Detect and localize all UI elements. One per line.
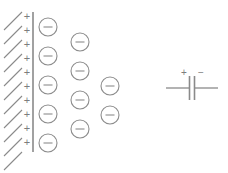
plus-charge: +	[24, 108, 30, 120]
hatch-line	[4, 96, 22, 114]
plus-charge: +	[24, 122, 30, 134]
plus-charge: +	[24, 38, 30, 50]
negative-ion	[39, 47, 57, 65]
double-layer-figure: + + + + + + + + + +	[0, 0, 228, 173]
negative-ion	[101, 106, 119, 124]
negative-ion	[71, 120, 89, 138]
plus-charge: +	[24, 80, 30, 92]
negative-ion	[101, 77, 119, 95]
negative-ion	[39, 18, 57, 36]
negative-ion	[71, 62, 89, 80]
negative-ion	[71, 33, 89, 51]
capacitor-minus-label: −	[198, 67, 204, 78]
capacitor-symbol: + −	[166, 67, 218, 100]
hatch-line	[4, 68, 22, 86]
plus-charge: +	[24, 94, 30, 106]
capacitor-plus-label: +	[181, 67, 187, 78]
negative-ion	[39, 76, 57, 94]
hatch-line	[4, 54, 22, 72]
plus-charge: +	[24, 10, 30, 22]
hatch-line	[4, 12, 22, 30]
plus-charge: +	[24, 24, 30, 36]
negative-ion	[39, 134, 57, 152]
diagram-canvas: + + + + + + + + + +	[0, 0, 228, 173]
hatch-line	[4, 110, 22, 128]
hatch-line	[4, 124, 22, 142]
plus-charge: +	[24, 136, 30, 148]
hatch-line	[4, 82, 22, 100]
hatch-line	[4, 152, 22, 170]
negative-ion-column-1	[39, 18, 57, 152]
hatch-line	[4, 40, 22, 58]
negative-ion	[39, 105, 57, 123]
plus-charge: +	[24, 52, 30, 64]
negative-ion-column-3	[101, 77, 119, 124]
hatch-line	[4, 26, 22, 44]
positive-charge-group: + + + + + + + + + +	[24, 10, 30, 148]
hatch-line	[4, 138, 22, 156]
electrode-hatching	[4, 12, 22, 170]
plus-charge: +	[24, 66, 30, 78]
negative-ion-column-2	[71, 33, 89, 138]
negative-ion	[71, 91, 89, 109]
